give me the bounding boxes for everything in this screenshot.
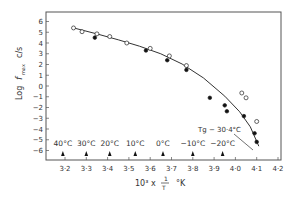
x-axis-label: 10³ x 1 T °K — [135, 175, 186, 191]
filled-point — [242, 114, 246, 118]
y-axis-label: Log f max c/s — [14, 47, 26, 100]
open-point — [80, 30, 84, 34]
temperature-label: −20°C — [210, 139, 235, 148]
xlabel-num: 1 — [164, 175, 168, 182]
x-tick-label: 3·9 — [209, 165, 220, 173]
y-axis: 6543210−1−2−3−4−5−6 — [33, 18, 49, 155]
ylabel-log: Log — [15, 86, 24, 100]
x-tick-label: 4·2 — [272, 165, 283, 173]
y-tick-label: 2 — [39, 61, 43, 69]
x-tick-label: 3·5 — [123, 165, 134, 173]
plot-frame — [46, 12, 281, 160]
tg-label: Tg − 30·4°C — [197, 126, 241, 134]
y-tick-label: −3 — [33, 115, 43, 123]
x-tick-label: 4·1 — [251, 165, 262, 173]
filled-point — [144, 49, 148, 53]
y-tick-label: −5 — [33, 136, 43, 144]
x-tick-label: 3·6 — [145, 165, 157, 173]
filled-point — [93, 36, 97, 40]
y-tick-label: 5 — [39, 29, 43, 37]
tg-leader-line — [234, 134, 253, 150]
arrow-up-icon — [85, 151, 89, 156]
x-tick-label: 3·2 — [59, 165, 70, 173]
x-tick-label: 3·4 — [102, 165, 114, 173]
y-tick-label: −2 — [33, 104, 43, 112]
arrow-up-icon — [108, 151, 112, 156]
x-tick-label: 4·0 — [230, 165, 241, 173]
open-point — [255, 119, 259, 123]
arrow-up-icon — [161, 151, 165, 156]
open-point — [72, 26, 76, 30]
arrow-up-icon — [133, 151, 137, 156]
y-tick-label: −6 — [33, 147, 44, 155]
chart-container: 6543210−1−2−3−4−5−6 3·23·33·43·53·63·73·… — [0, 0, 295, 200]
x-tick-label: 3·3 — [81, 165, 92, 173]
y-tick-label: 1 — [39, 72, 43, 80]
temperature-label: 0°C — [156, 139, 170, 148]
xlabel-prefix: 10³ x — [135, 179, 156, 188]
filled-point — [255, 140, 259, 144]
arrow-up-icon — [221, 151, 225, 156]
open-point — [108, 35, 112, 39]
ylabel-unit: c/s — [15, 47, 24, 58]
temperature-label: 30°C — [77, 139, 96, 148]
y-tick-label: 6 — [39, 18, 44, 26]
xlabel-den: T — [161, 184, 166, 191]
temperature-annotations: 40°C30°C20°C10°C0°C−10°C−20°C — [54, 139, 235, 156]
open-point — [167, 54, 171, 58]
filled-point — [223, 104, 227, 108]
x-tick-label: 3·8 — [187, 165, 198, 173]
y-tick-label: 0 — [39, 83, 43, 91]
open-point — [148, 46, 152, 50]
xlabel-unit: °K — [176, 179, 186, 188]
x-axis: 3·23·33·43·53·63·73·83·94·04·14·2 — [59, 157, 283, 173]
y-tick-label: 3 — [39, 50, 43, 58]
y-tick-label: −1 — [33, 93, 43, 101]
chart-svg: 6543210−1−2−3−4−5−6 3·23·33·43·53·63·73·… — [0, 0, 295, 200]
temperature-label: 10°C — [126, 139, 145, 148]
open-point — [125, 41, 129, 45]
filled-point — [208, 96, 212, 100]
open-point — [95, 32, 99, 36]
arrow-up-icon — [61, 151, 65, 156]
x-tick-label: 3·7 — [166, 165, 177, 173]
temperature-label: −10°C — [180, 139, 205, 148]
arrow-up-icon — [191, 151, 195, 156]
temperature-label: 40°C — [54, 139, 73, 148]
ylabel-sub: max — [20, 64, 26, 75]
y-tick-label: 4 — [39, 40, 44, 48]
filled-point — [225, 109, 229, 113]
filled-point — [165, 58, 169, 62]
filled-point — [185, 68, 189, 72]
filled-point — [253, 132, 257, 136]
y-tick-label: −4 — [33, 126, 44, 134]
open-point — [184, 64, 188, 68]
temperature-label: 20°C — [100, 139, 119, 148]
open-point — [240, 91, 244, 95]
open-point — [244, 96, 248, 100]
